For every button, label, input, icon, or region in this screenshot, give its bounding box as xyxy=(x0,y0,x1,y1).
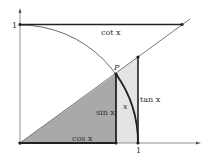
y-axis-arrow-icon xyxy=(19,8,22,13)
trig-diagram: 1 1 P cot x sin x x tan x cos x xyxy=(0,0,208,159)
arc-x-label: x xyxy=(123,102,128,111)
point-p-label: P xyxy=(113,63,120,72)
cos-label: cos x xyxy=(72,134,93,143)
origin-point xyxy=(18,141,21,144)
x-one-point xyxy=(136,141,139,144)
point-p xyxy=(114,72,117,75)
cot-label: cot x xyxy=(101,28,121,37)
cot-end-point xyxy=(180,23,183,26)
tan-label: tan x xyxy=(140,95,161,104)
x-one-label: 1 xyxy=(136,146,141,155)
tan-top-point xyxy=(136,55,139,58)
y-one-label: 1 xyxy=(12,21,17,30)
sin-label: sin x xyxy=(96,108,115,117)
x-axis-arrow-icon xyxy=(196,142,201,145)
y-one-point xyxy=(18,23,21,26)
sin-base-point xyxy=(114,141,117,144)
